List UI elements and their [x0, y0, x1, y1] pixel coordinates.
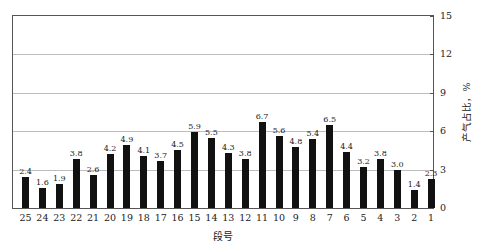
y-tick-mark	[430, 170, 434, 171]
x-axis-label: 段号	[0, 228, 446, 243]
bar-segment-16	[174, 150, 181, 208]
data-label: 6.5	[318, 115, 342, 124]
data-label: 4.2	[98, 144, 122, 153]
bar-segment-4	[377, 159, 384, 208]
data-label: 3.2	[352, 157, 376, 166]
y-tick-label: 15	[440, 11, 452, 21]
bar-segment-18	[140, 156, 147, 208]
x-tick-label: 1	[421, 212, 441, 223]
plot-area: 2.41.61.93.82.64.24.94.13.74.55.95.54.33…	[12, 15, 434, 209]
data-label: 5.5	[199, 128, 223, 137]
bar-chart: 2.41.61.93.82.64.24.94.13.74.55.95.54.33…	[0, 0, 482, 244]
data-label: 3.0	[385, 160, 409, 169]
y-tick-mark	[430, 54, 434, 55]
bar-segment-10	[276, 136, 283, 208]
data-label: 4.4	[335, 142, 359, 151]
y-tick-mark	[430, 93, 434, 94]
data-label: 3.8	[233, 149, 257, 158]
y-tick-mark	[430, 16, 434, 17]
bar-segment-15	[191, 132, 198, 208]
y-tick-label: 12	[440, 49, 452, 59]
y-axis-label: 产气占比，%	[459, 82, 473, 141]
y-tick-mark	[430, 208, 434, 209]
bar-segment-8	[309, 139, 316, 208]
data-label: 3.7	[149, 151, 173, 160]
data-label: 3.8	[64, 149, 88, 158]
y-tick-mark	[430, 131, 434, 132]
data-label: 3.8	[368, 149, 392, 158]
y-tick-label: 3	[440, 165, 446, 175]
bar-segment-6	[343, 152, 350, 208]
bar-segment-23	[56, 184, 63, 208]
bar-segment-5	[360, 167, 367, 208]
data-label: 1.9	[47, 174, 71, 183]
y-tick-label: 9	[440, 88, 446, 98]
bar-segment-20	[107, 154, 114, 208]
data-label: 1.4	[402, 180, 426, 189]
data-label: 4.9	[115, 135, 139, 144]
bar-segment-3	[394, 170, 401, 208]
bar-segment-12	[242, 159, 249, 208]
gridline	[13, 93, 433, 94]
bar-segment-2	[411, 190, 418, 208]
data-label: 4.5	[166, 140, 190, 149]
bar-segment-9	[292, 147, 299, 208]
bar-segment-11	[259, 122, 266, 208]
data-label: 6.7	[250, 112, 274, 121]
data-label: 4.8	[284, 137, 308, 146]
data-label: 5.4	[301, 129, 325, 138]
data-label: 2.6	[81, 165, 105, 174]
gridline	[13, 54, 433, 55]
bar-segment-7	[326, 125, 333, 208]
bar-segment-22	[73, 159, 80, 208]
bar-segment-13	[225, 153, 232, 208]
data-label: 2.4	[14, 167, 38, 176]
bar-segment-25	[22, 177, 29, 208]
y-tick-label: 6	[440, 126, 446, 136]
data-label: 5.6	[267, 126, 291, 135]
bar-segment-17	[157, 161, 164, 208]
bar-segment-21	[90, 175, 97, 208]
bar-segment-24	[39, 188, 46, 208]
bar-segment-14	[208, 138, 215, 208]
bar-segment-1	[428, 179, 435, 208]
bar-segment-19	[123, 145, 130, 208]
